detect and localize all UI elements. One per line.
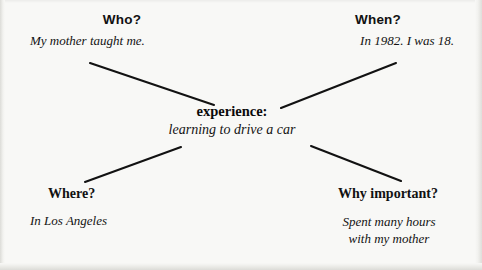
branch-why-important-answer: Spent many hours with my mother — [302, 213, 476, 247]
connector-why-line — [311, 146, 401, 181]
branch-why-important[interactable]: Why important? Spent many hours with my … — [296, 186, 476, 247]
center-node-term: experience: — [122, 103, 342, 120]
connector-when-line — [281, 63, 396, 108]
branch-where-question: Where? — [48, 186, 220, 202]
branch-why-important-answer-line-2: with my mother — [349, 231, 430, 246]
center-node-description: learning to drive a car — [122, 122, 342, 138]
branch-when-answer: In 1982. I was 18. — [262, 33, 454, 49]
center-node[interactable]: experience: learning to drive a car — [122, 103, 342, 138]
branch-who-answer: My mother taught me. — [30, 33, 220, 49]
branch-when[interactable]: When? In 1982. I was 18. — [262, 12, 476, 49]
branch-who-question: Who? — [24, 12, 220, 27]
cluster-map-diagram: Who? My mother taught me. When? In 1982.… — [0, 0, 482, 270]
branch-why-important-answer-line-1: Spent many hours — [342, 214, 435, 229]
branch-when-question: When? — [280, 12, 476, 27]
branch-why-important-question: Why important? — [300, 186, 476, 202]
connector-where-line — [85, 147, 181, 182]
branch-where-answer: In Los Angeles — [30, 213, 220, 229]
connector-who-line — [90, 63, 214, 105]
branch-where[interactable]: Where? In Los Angeles — [20, 186, 220, 229]
branch-who[interactable]: Who? My mother taught me. — [0, 12, 220, 49]
